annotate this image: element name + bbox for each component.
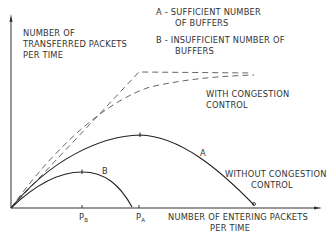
y-axis-label-line1: NUMBER OF — [23, 28, 75, 38]
tick-pa-sub: A — [141, 217, 145, 223]
y-axis-arrow — [10, 14, 13, 22]
tick-pb-sub: B — [84, 217, 88, 223]
with-cc-label-line1: WITH CONGESTION — [206, 89, 289, 99]
with-cc-label-line2: CONTROL — [206, 100, 248, 110]
legend-b-line2: BUFFERS — [175, 46, 214, 56]
tick-pb-label: PB — [79, 212, 88, 225]
curve-a-label: A — [200, 148, 206, 158]
curve-b — [11, 172, 132, 208]
curve-a — [11, 135, 254, 208]
x-axis-label-line1: NUMBER OF ENTERING PACKETS — [168, 212, 308, 222]
y-axis-label-line2: TRANSFERRED PACKETS — [23, 39, 127, 49]
y-axis-label-line3: PER TIME — [23, 50, 63, 60]
without-cc-label-line1: WITHOUT CONGESTION — [225, 169, 327, 179]
x-axis-label-line2: PER TIME — [210, 223, 250, 233]
legend-b-line1: B - INSUFFICIENT NUMBER OF — [156, 35, 285, 45]
legend-a-line1: A - SUFFICIENT NUMBER — [156, 7, 261, 17]
tick-pa-label: PA — [136, 212, 145, 225]
curve-b-label: B — [102, 166, 108, 176]
legend-a-line2: OF BUFFERS — [175, 18, 229, 28]
x-axis-arrow — [314, 207, 322, 210]
without-cc-label-line2: CONTROL — [251, 180, 293, 190]
